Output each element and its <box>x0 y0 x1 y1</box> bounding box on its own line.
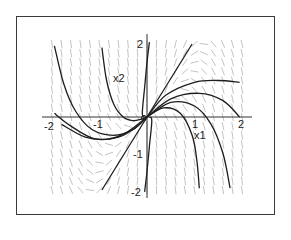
field-arrow <box>128 67 129 75</box>
field-arrow <box>184 122 187 130</box>
field-arrow <box>80 49 81 57</box>
field-arrow <box>165 67 167 75</box>
field-arrow <box>232 149 233 157</box>
field-arrow <box>175 40 177 48</box>
field-arrow <box>241 104 242 112</box>
field-arrow <box>79 122 81 130</box>
field-arrow <box>241 140 242 148</box>
field-arrow <box>194 159 196 167</box>
field-arrow <box>127 86 128 94</box>
field-arrow <box>51 95 52 103</box>
field-arrow <box>156 131 157 139</box>
field-arrow <box>175 177 176 185</box>
field-arrow <box>137 104 139 112</box>
field-arrow <box>192 95 196 102</box>
y-axis-label: x2 <box>113 72 125 84</box>
field-arrow <box>174 58 177 66</box>
field-arrow <box>241 159 242 167</box>
field-arrow <box>60 177 62 185</box>
field-arrow <box>87 169 94 174</box>
field-arrow <box>184 159 186 167</box>
field-arrow <box>232 95 234 103</box>
field-arrow <box>118 49 119 57</box>
field-arrow <box>231 40 233 48</box>
field-arrow <box>175 149 177 157</box>
field-arrow <box>231 49 233 57</box>
field-arrow <box>241 76 243 84</box>
field-arrow <box>212 104 214 112</box>
field-arrow <box>165 131 167 139</box>
field-arrow <box>51 177 53 185</box>
field-arrow <box>231 67 233 75</box>
field-arrow <box>86 179 94 182</box>
field-arrow <box>137 168 138 176</box>
field-arrow <box>232 168 233 176</box>
field-arrow <box>156 149 157 157</box>
field-arrow <box>203 168 204 176</box>
field-arrow <box>241 67 243 75</box>
field-arrow <box>105 143 113 145</box>
field-arrow <box>190 71 198 72</box>
field-arrow <box>95 162 103 163</box>
field-arrow <box>89 95 91 103</box>
field-arrow <box>222 122 224 130</box>
field-arrow <box>222 140 224 148</box>
field-arrow <box>61 104 62 112</box>
field-arrow <box>80 76 82 84</box>
field-arrow <box>194 186 195 194</box>
field-arrow <box>165 49 166 57</box>
field-arrow <box>222 131 224 139</box>
field-arrow <box>88 141 92 148</box>
field-arrow <box>222 58 225 66</box>
field-arrow <box>183 40 186 48</box>
field-arrow <box>88 150 93 157</box>
field-arrow <box>174 49 176 57</box>
field-arrow <box>80 86 82 94</box>
field-arrow <box>202 86 206 93</box>
field-arrow <box>89 67 91 75</box>
field-arrow <box>156 49 157 57</box>
field-arrow <box>232 131 233 139</box>
field-arrow <box>175 159 176 167</box>
field-arrow <box>117 95 119 103</box>
field-arrow <box>80 40 81 48</box>
field-arrow <box>165 140 166 148</box>
field-arrow <box>108 95 110 103</box>
field-arrow <box>242 168 243 176</box>
field-arrow <box>173 77 178 84</box>
field-arrow <box>137 177 138 185</box>
field-arrow <box>128 40 129 48</box>
field-arrow <box>98 104 100 112</box>
field-arrow <box>156 168 157 176</box>
field-arrow <box>89 49 90 57</box>
field-arrow <box>192 41 198 47</box>
field-arrow <box>166 159 167 167</box>
field-arrow <box>70 67 71 75</box>
field-arrow <box>99 76 101 84</box>
field-arrow <box>156 58 157 66</box>
field-arrow <box>118 186 120 194</box>
field-arrow <box>61 86 62 94</box>
trajectory-traj-near-axis-up <box>142 42 149 117</box>
field-arrow <box>174 122 177 130</box>
field-arrow <box>61 95 62 103</box>
field-arrow <box>182 96 188 102</box>
field-arrow <box>156 86 157 94</box>
field-arrow <box>51 140 53 148</box>
field-arrow <box>80 104 82 112</box>
field-arrow <box>116 150 121 157</box>
field-arrow <box>80 67 81 75</box>
field-arrow <box>89 86 91 94</box>
field-arrow <box>175 186 176 194</box>
field-arrow <box>137 67 138 75</box>
field-arrow <box>51 149 53 157</box>
y-tick-neg1: -1 <box>133 148 143 160</box>
field-arrow <box>107 186 110 194</box>
field-arrow <box>184 140 186 148</box>
field-arrow <box>69 177 72 185</box>
field-arrow <box>211 50 216 57</box>
field-arrow <box>61 131 63 139</box>
field-arrow <box>105 152 113 155</box>
field-arrow <box>99 86 101 94</box>
field-arrow <box>89 58 90 66</box>
